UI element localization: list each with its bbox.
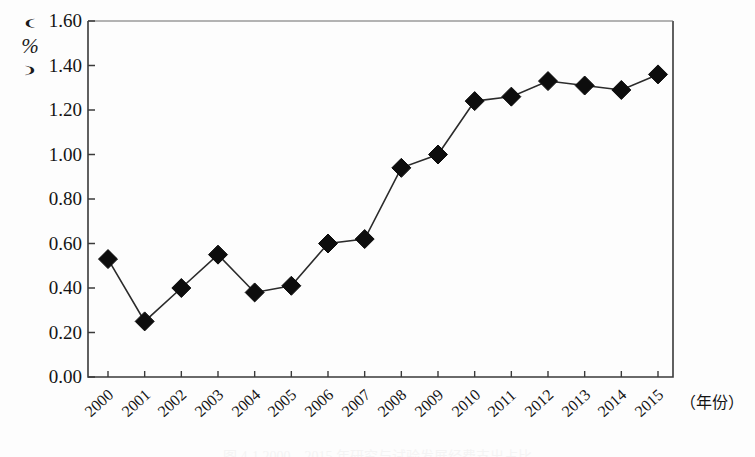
y-tick-label: 0.20 <box>26 323 82 342</box>
y-axis-ticks <box>88 21 95 377</box>
data-point-marker <box>99 250 118 269</box>
data-point-marker <box>465 92 484 111</box>
data-point-marker <box>575 76 594 95</box>
series-polyline <box>108 74 658 321</box>
y-tick-label: 1.40 <box>26 56 82 75</box>
plot-frame <box>88 21 673 377</box>
y-tick-label: 1.00 <box>26 145 82 164</box>
data-markers <box>99 65 668 331</box>
data-point-marker <box>612 80 631 99</box>
x-axis-ticks <box>108 371 658 377</box>
data-point-marker <box>649 65 668 84</box>
data-line <box>108 74 658 321</box>
data-point-marker <box>392 158 411 177</box>
y-tick-label: 0.00 <box>26 367 82 386</box>
data-point-marker <box>429 145 448 164</box>
y-axis-tick-labels: 0.000.200.400.600.801.001.201.401.60 <box>22 0 82 457</box>
data-point-marker <box>502 87 521 106</box>
x-axis-unit-label: （年份） <box>680 395 744 411</box>
y-tick-label: 0.80 <box>26 189 82 208</box>
y-tick-label: 0.60 <box>26 234 82 253</box>
y-tick-label: 0.40 <box>26 278 82 297</box>
figure-caption: 图 4-1 2000—2015 年研究与试验发展经费支出占比 <box>0 445 755 457</box>
y-tick-label: 1.60 <box>26 11 82 30</box>
plot-area <box>0 0 755 457</box>
y-tick-label: 1.20 <box>26 100 82 119</box>
data-point-marker <box>539 72 558 91</box>
axis-lines <box>88 21 673 377</box>
data-point-marker <box>355 230 374 249</box>
chart-container: ( % ) 0.000.200.400.600.801.001.201.401.… <box>0 0 755 457</box>
